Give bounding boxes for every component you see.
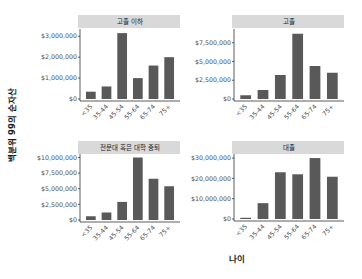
bar (275, 75, 286, 99)
bar (310, 158, 321, 219)
y-tick-label: $1,000,000 (41, 74, 77, 81)
bar (86, 216, 96, 220)
panel-1: 고졸 이하$0$1,000,000$2,000,000$3,000,000<35… (41, 15, 180, 121)
x-tick-label: 45-54 (265, 103, 283, 121)
bar (133, 78, 143, 99)
y-tick-label: $5,000,000 (41, 185, 77, 192)
x-tick-label: 75+ (158, 103, 172, 117)
y-tick-label: $0 (69, 216, 77, 223)
y-tick-label: $5,000,000 (195, 58, 231, 65)
y-tick-label: $2,000,000 (41, 53, 77, 60)
x-tick-label: 55-64 (282, 103, 300, 121)
x-axis-title: 나이 (229, 254, 245, 264)
facet-title: 고졸 (283, 18, 295, 26)
x-tick-label: 45-54 (265, 223, 283, 241)
x-tick-label: 55-64 (282, 223, 300, 241)
y-tick-label: $2,500,000 (195, 76, 231, 83)
bar (164, 186, 174, 220)
bar (149, 179, 159, 220)
y-tick-label: $20,000,000 (191, 175, 231, 182)
bar (327, 177, 338, 219)
y-tick-label: $10,000,000 (37, 154, 77, 161)
panel-4: 대졸$0$10,000,000$20,000,000$30,000,000<35… (191, 141, 344, 241)
x-tick-label: 35-44 (91, 224, 109, 242)
y-tick-label: $0 (223, 95, 231, 102)
bar (117, 33, 127, 99)
x-tick-label: <35 (234, 103, 248, 117)
x-tick-label: 65-74 (138, 224, 156, 242)
y-tick-label: $7,500,000 (41, 169, 77, 176)
x-tick-label: 65-74 (300, 103, 318, 121)
bar (240, 95, 251, 99)
bar (310, 66, 321, 99)
bar (292, 34, 303, 99)
x-tick-label: 35-44 (248, 223, 266, 241)
y-axis-title: 백분위 99의 순자산 (7, 88, 17, 162)
bar (164, 57, 174, 99)
bar (102, 213, 112, 221)
x-tick-label: 75+ (158, 224, 172, 238)
x-tick-label: 35-44 (248, 103, 266, 121)
y-tick-label: $3,000,000 (41, 32, 77, 39)
y-tick-label: $30,000,000 (191, 154, 231, 161)
y-tick-label: $2,500,000 (41, 201, 77, 208)
x-tick-label: 45-54 (107, 103, 125, 121)
facet-title: 대졸 (283, 144, 295, 152)
x-tick-label: 65-74 (138, 103, 156, 121)
faceted-bar-chart: 백분위 99의 순자산 나이 고졸 이하$0$1,000,000$2,000,0… (0, 0, 362, 279)
bar (117, 202, 127, 220)
x-tick-label: <35 (234, 223, 248, 237)
facet-title: 고졸 이하 (117, 17, 143, 26)
x-tick-label: 65-74 (300, 223, 318, 241)
bar (258, 90, 269, 99)
y-tick-label: $0 (223, 215, 231, 222)
x-tick-label: 75+ (321, 103, 335, 117)
bar (327, 73, 338, 99)
bar (292, 174, 303, 219)
y-tick-label: $10,000,000 (191, 195, 231, 202)
bar (86, 92, 96, 99)
bar (240, 218, 251, 219)
bar (149, 66, 159, 99)
x-tick-label: 75+ (321, 223, 335, 237)
bar (258, 203, 269, 219)
panel-2: 고졸$0$2,500,000$5,000,000$7,500,000<3535-… (195, 15, 344, 121)
x-tick-label: 35-44 (91, 103, 109, 121)
facet-title: 전문대 혹은 대학 중퇴 (100, 143, 160, 152)
bar (102, 86, 112, 99)
y-tick-label: $0 (69, 95, 77, 102)
y-tick-label: $7,500,000 (195, 39, 231, 46)
x-tick-label: 55-64 (123, 224, 141, 242)
bar (133, 158, 143, 221)
x-tick-label: 55-64 (123, 103, 141, 121)
x-tick-label: 45-54 (107, 224, 125, 242)
bar (275, 172, 286, 219)
panel-3: 전문대 혹은 대학 중퇴$0$2,500,000$5,000,000$7,500… (37, 141, 180, 242)
